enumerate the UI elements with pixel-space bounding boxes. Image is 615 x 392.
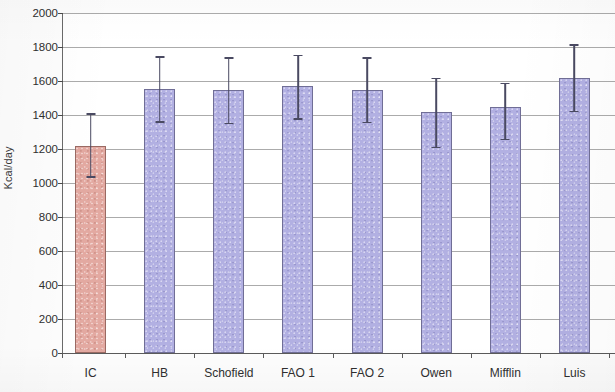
x-axis-tick-mark [609, 353, 610, 358]
error-bar-cap-upper [432, 78, 441, 80]
x-axis-tick-mark [62, 353, 63, 358]
x-axis-tick-mark [333, 353, 334, 358]
error-bar-cap-lower [224, 123, 233, 125]
error-bar [568, 44, 580, 112]
x-axis-tick-label: IC [85, 366, 97, 380]
y-axis-tick-mark [58, 81, 63, 82]
y-axis-tick-label: 1400 [18, 109, 58, 121]
y-axis-tick-label: 200 [18, 313, 58, 325]
error-bar-stem [505, 83, 507, 141]
x-axis-tick-mark [540, 353, 541, 358]
error-bar-stem [159, 56, 161, 122]
x-axis-tick-mark [471, 353, 472, 358]
bar [490, 107, 521, 354]
error-bar-cap-lower [432, 147, 441, 149]
error-bar-cap-lower [86, 176, 95, 178]
error-bar-stem [228, 57, 230, 124]
error-bar-cap-upper [570, 44, 579, 46]
error-bar-stem [90, 113, 92, 178]
x-axis-tick-label: Schofield [204, 366, 253, 380]
error-bar-cap-lower [363, 122, 372, 124]
bar [559, 78, 590, 353]
y-axis-tick-mark [58, 285, 63, 286]
x-axis-tick-mark [194, 353, 195, 358]
error-bar [154, 56, 166, 122]
y-axis-tick-label: 600 [18, 245, 58, 257]
y-axis-tick-mark [58, 115, 63, 116]
error-bar [361, 57, 373, 123]
error-bar-cap-upper [501, 83, 510, 85]
y-axis-tick-label: 2000 [18, 7, 58, 19]
error-bar [292, 55, 304, 120]
error-bar-cap-upper [363, 57, 372, 59]
y-axis-tick-mark [58, 149, 63, 150]
y-axis-tick-label: 1800 [18, 41, 58, 53]
x-axis-tick-label: Luis [563, 366, 585, 380]
y-axis-tick-label: 1600 [18, 75, 58, 87]
y-axis-tick-mark [58, 47, 63, 48]
error-bar-cap-lower [570, 111, 579, 113]
x-axis-tick-label: HB [151, 366, 168, 380]
y-axis-tick-label: 400 [18, 279, 58, 291]
y-axis-tick-label: 1000 [18, 177, 58, 189]
x-axis-tick-mark [402, 353, 403, 358]
bar-chart: Kcal/day 0200400600800100012001400160018… [0, 0, 615, 392]
y-axis-title-text: Kcal/day [2, 108, 14, 228]
x-axis-tick-mark [125, 353, 126, 358]
error-bar-stem [297, 55, 299, 120]
error-bar-stem [435, 78, 437, 149]
gridline [62, 353, 615, 354]
error-bar-cap-upper [224, 57, 233, 59]
y-axis-tick-mark [58, 217, 63, 218]
gridline [62, 47, 615, 48]
error-bar [430, 78, 442, 149]
error-bar [85, 113, 97, 178]
error-bar-stem [366, 57, 368, 123]
x-axis-tick-mark [263, 353, 264, 358]
error-bar-stem [574, 44, 576, 112]
error-bar-cap-upper [155, 56, 164, 58]
bar [352, 90, 383, 353]
error-bar-cap-upper [293, 55, 302, 57]
error-bar [499, 83, 511, 141]
error-bar-cap-lower [155, 121, 164, 123]
x-axis-tick-labels: ICHBSchofieldFAO 1FAO 2OwenMifflinLuis [62, 358, 615, 392]
y-axis-tick-label: 0 [18, 347, 58, 359]
gridline [62, 13, 615, 14]
y-axis-tick-label: 800 [18, 211, 58, 223]
error-bar-cap-lower [293, 118, 302, 120]
gridline [62, 81, 615, 82]
x-axis-tick-label: FAO 1 [281, 366, 315, 380]
x-axis-tick-label: Owen [421, 366, 452, 380]
bar [421, 112, 452, 353]
plot-area [62, 13, 615, 353]
bar [213, 90, 244, 353]
x-axis-tick-label: FAO 2 [350, 366, 384, 380]
y-axis-tick-mark [58, 251, 63, 252]
error-bar-cap-lower [501, 139, 510, 141]
bar [144, 89, 175, 353]
y-axis-tick-labels: 0200400600800100012001400160018002000 [18, 0, 58, 392]
y-axis-tick-mark [58, 319, 63, 320]
error-bar [223, 57, 235, 124]
error-bar-cap-upper [86, 113, 95, 115]
x-axis-tick-label: Mifflin [490, 366, 521, 380]
bar [282, 86, 313, 353]
y-axis-title: Kcal/day [0, 0, 20, 392]
y-axis-tick-mark [58, 13, 63, 14]
y-axis-tick-label: 1200 [18, 143, 58, 155]
y-axis-tick-mark [58, 183, 63, 184]
